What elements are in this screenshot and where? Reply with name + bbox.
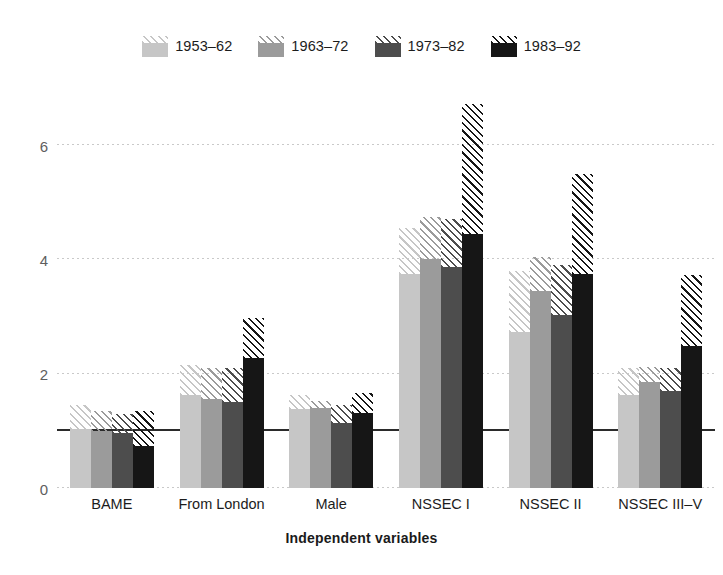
plot-area: 0246 BAMEFrom LondonMaleNSSEC INSSEC IIN… [57, 88, 715, 488]
bar-confidence-interval [91, 411, 112, 431]
legend-swatch-solid [375, 43, 401, 56]
legend-swatch-hatch [258, 36, 284, 44]
y-axis-tick-label: 6 [40, 138, 48, 153]
x-axis-tick-label: From London [178, 496, 264, 512]
bar[interactable] [399, 88, 420, 488]
bar-confidence-interval [681, 275, 702, 346]
bar-value [91, 431, 112, 488]
bar-group-bars [386, 88, 496, 488]
legend-swatch-hatch [375, 36, 401, 44]
bar-group-bars [276, 88, 386, 488]
bar-value [660, 391, 681, 488]
y-axis-tick-label: 0 [40, 481, 48, 496]
bar[interactable] [352, 88, 373, 488]
legend-swatch-solid [258, 43, 284, 56]
bar-group: Male [276, 88, 386, 488]
bar-value [399, 274, 420, 488]
bar-confidence-interval [289, 395, 310, 409]
legend-swatch-hatch [491, 36, 517, 44]
bar-confidence-interval [331, 405, 352, 423]
x-axis-tick-label: BAME [91, 496, 132, 512]
bar-value [201, 399, 222, 488]
bar[interactable] [572, 88, 593, 488]
bar-group-bars [605, 88, 715, 488]
bar-confidence-interval [509, 271, 530, 332]
bar[interactable] [639, 88, 660, 488]
bar[interactable] [441, 88, 462, 488]
bar-value [70, 429, 91, 488]
bar-value [112, 433, 133, 488]
bar-value [352, 413, 373, 488]
bar[interactable] [551, 88, 572, 488]
x-axis-tick-label: NSSEC I [412, 496, 470, 512]
legend-item[interactable]: 1983–92 [491, 36, 581, 57]
legend-item-label: 1973–82 [408, 38, 465, 54]
bar[interactable] [133, 88, 154, 488]
bar-value [681, 346, 702, 488]
bar-confidence-interval [112, 414, 133, 433]
bar-value [509, 332, 530, 488]
x-axis-tick-label: NSSEC II [519, 496, 581, 512]
bar[interactable] [201, 88, 222, 488]
bar-confidence-interval [551, 265, 572, 315]
legend-item[interactable]: 1963–72 [258, 36, 348, 57]
bar-value [243, 358, 264, 488]
chart-legend: 1953–621963–721973–821983–92 [0, 30, 723, 62]
bar[interactable] [91, 88, 112, 488]
bar[interactable] [70, 88, 91, 488]
bar-confidence-interval [462, 104, 483, 234]
legend-swatch-icon [375, 36, 401, 57]
bar-confidence-interval [572, 174, 593, 274]
bar-confidence-interval [222, 368, 243, 402]
bar-confidence-interval [352, 393, 373, 413]
legend-item[interactable]: 1973–82 [375, 36, 465, 57]
bar-group: BAME [57, 88, 167, 488]
bar[interactable] [530, 88, 551, 488]
x-axis-title: Independent variables [0, 530, 723, 546]
bar[interactable] [660, 88, 681, 488]
bar[interactable] [681, 88, 702, 488]
bar[interactable] [289, 88, 310, 488]
legend-swatch-icon [258, 36, 284, 57]
bar[interactable] [180, 88, 201, 488]
bar-value [551, 315, 572, 488]
bar-value [310, 408, 331, 488]
bar-confidence-interval [201, 368, 222, 399]
bar[interactable] [618, 88, 639, 488]
bar-value [133, 446, 154, 488]
bar-value [462, 234, 483, 488]
bar-group-bars [57, 88, 167, 488]
bar[interactable] [112, 88, 133, 488]
legend-swatch-solid [491, 43, 517, 56]
bar-confidence-interval [660, 368, 681, 391]
bar[interactable] [331, 88, 352, 488]
bar-group: NSSEC III–V [605, 88, 715, 488]
bar-value [441, 267, 462, 488]
x-axis-tick-label: NSSEC III–V [618, 496, 702, 512]
bar-confidence-interval [243, 318, 264, 358]
y-axis-tick-label: 2 [40, 367, 48, 382]
bar-confidence-interval [70, 405, 91, 429]
legend-swatch-icon [142, 36, 168, 57]
bar[interactable] [222, 88, 243, 488]
bar-confidence-interval [420, 217, 441, 260]
bar-value [180, 395, 201, 488]
bar-value [618, 395, 639, 488]
bar-confidence-interval [180, 365, 201, 395]
bar-group: From London [167, 88, 277, 488]
bar-confidence-interval [618, 368, 639, 395]
bar-group-bars [496, 88, 606, 488]
bar[interactable] [420, 88, 441, 488]
bar-group: NSSEC I [386, 88, 496, 488]
bar-groups: BAMEFrom LondonMaleNSSEC INSSEC IINSSEC … [57, 88, 715, 488]
bar-group-bars [167, 88, 277, 488]
bar[interactable] [310, 88, 331, 488]
bar-value [289, 409, 310, 488]
bar[interactable] [509, 88, 530, 488]
bar[interactable] [243, 88, 264, 488]
bar[interactable] [462, 88, 483, 488]
y-axis-tick-label: 4 [40, 252, 48, 267]
legend-item[interactable]: 1953–62 [142, 36, 232, 57]
bar-value [639, 382, 660, 488]
bar-value [530, 291, 551, 488]
